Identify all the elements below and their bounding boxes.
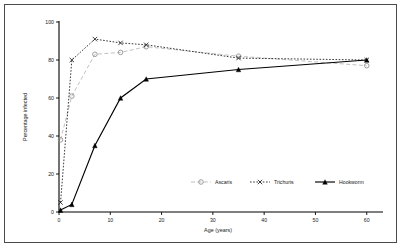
x-tick-label: 40 [261,217,267,223]
x-tick-label: 30 [210,217,216,223]
x-axis-ticks: 0102030405060 [58,212,370,223]
x-tick-label: 60 [364,217,370,223]
data-point-marker [70,202,75,207]
y-tick-label: 40 [48,133,54,139]
data-series-group [58,37,369,213]
y-tick-label: 100 [45,19,54,25]
series-line-hookworm [61,60,367,210]
y-tick-label: 60 [48,95,54,101]
chart-svg: 020406080100 0102030405060 Age (years) P… [5,5,396,242]
legend-item-label: Hookworm [339,179,364,185]
y-axis-title: Percentage infected [22,93,28,141]
chart-plot-area: 020406080100 0102030405060 Age (years) P… [5,5,396,242]
data-point-marker [93,143,98,148]
legend-item-label: Ascaris [215,179,232,185]
x-tick-label: 0 [58,217,61,223]
figure-frame: 020406080100 0102030405060 Age (years) P… [4,4,397,243]
y-tick-label: 20 [48,171,54,177]
y-tick-label: 80 [48,57,54,63]
x-tick-label: 50 [313,217,319,223]
x-axis-title: Age (years) [204,227,232,233]
chart-legend: AscarisTrichurisHookworm [191,179,364,185]
x-tick-label: 10 [107,217,113,223]
series-markers-hookworm [58,58,369,213]
data-point-marker [364,63,369,68]
legend-item-label: Trichuris [274,179,294,185]
x-tick-label: 20 [159,217,165,223]
series-line-ascaris [61,47,367,140]
y-axis-ticks: 020406080100 [45,19,59,215]
y-tick-label: 0 [51,209,54,215]
